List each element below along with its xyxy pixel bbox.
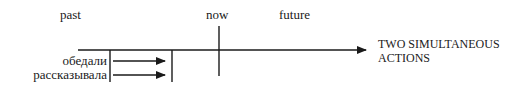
label-now: now: [206, 8, 228, 22]
caption-line-2: ACTIONS: [378, 51, 430, 65]
action-label-2: рассказывала: [33, 68, 107, 82]
label-past: past: [60, 8, 81, 22]
caption-line-1: TWO SIMULTANEOUS: [378, 37, 500, 51]
label-future: future: [279, 8, 310, 22]
action-label-1: обедали: [63, 54, 107, 68]
